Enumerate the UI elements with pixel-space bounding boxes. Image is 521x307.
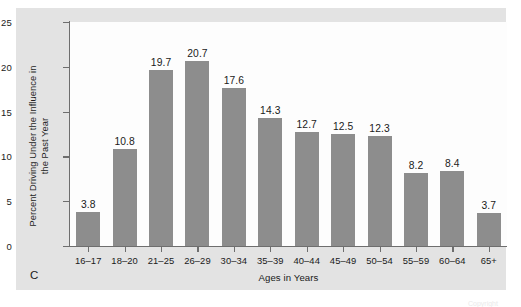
bar-value-label: 20.7 <box>187 48 207 59</box>
bar-value-label: 17.6 <box>224 75 244 86</box>
bar-group: 3.7 <box>471 22 507 246</box>
bar <box>149 70 173 247</box>
x-tick-mark <box>270 247 271 252</box>
y-axis-title-line-1: Percent Driving Under the Influence in <box>28 36 40 256</box>
x-tick-label: 50–54 <box>366 255 393 266</box>
y-tick-mark <box>63 246 69 247</box>
bar-value-label: 3.7 <box>481 200 496 211</box>
bar <box>113 149 137 246</box>
bar-value-label: 3.8 <box>81 199 96 210</box>
bar-value-label: 12.7 <box>296 119 316 130</box>
bar-group: 10.8 <box>106 22 142 246</box>
bar <box>222 88 246 246</box>
bar-group: 12.5 <box>325 22 361 246</box>
x-axis-title: Ages in Years <box>70 272 507 283</box>
bar-group: 8.2 <box>398 22 434 246</box>
y-tick-label: 25 <box>1 17 12 28</box>
bar-group: 12.7 <box>289 22 325 246</box>
bar-group: 20.7 <box>179 22 215 246</box>
x-tick-label: 16–17 <box>75 255 102 266</box>
y-tick-mark <box>63 22 69 23</box>
bar-series: 3.810.819.720.717.614.312.712.512.38.28.… <box>70 22 507 246</box>
bar-value-label: 12.5 <box>333 121 353 132</box>
bar <box>477 213 501 246</box>
bar-value-label: 10.8 <box>114 136 134 147</box>
bar-value-label: 14.3 <box>260 105 280 116</box>
y-tick-label: 20 <box>1 61 12 72</box>
bar <box>185 61 209 246</box>
bar <box>404 173 428 246</box>
panel-letter: C <box>30 269 38 281</box>
bar-group: 17.6 <box>216 22 252 246</box>
figure-panel: 0510152025 Percent Driving Under the Inf… <box>16 8 506 290</box>
x-tick-label: 30–34 <box>221 255 248 266</box>
x-tick-label: 55–59 <box>403 255 430 266</box>
y-axis-title: Percent Driving Under the Influence in t… <box>28 36 54 256</box>
x-tick-label: 45–49 <box>330 255 357 266</box>
y-axis-title-line-2: the Past Year <box>40 36 52 256</box>
y-tick-label: 5 <box>7 196 12 207</box>
x-tick-label: 60–64 <box>439 255 466 266</box>
x-tick-mark <box>88 247 89 252</box>
y-tick-mark <box>63 201 69 202</box>
bar-value-label: 8.4 <box>445 158 460 169</box>
y-tick-mark <box>63 67 69 68</box>
y-tick-label: 15 <box>1 106 12 117</box>
x-tick-label: 18–20 <box>111 255 138 266</box>
bar <box>368 136 392 246</box>
bar <box>440 171 464 246</box>
bar-group: 8.4 <box>434 22 470 246</box>
x-tick-mark <box>343 247 344 252</box>
y-tick-mark <box>63 156 69 157</box>
y-tick-mark <box>63 112 69 113</box>
y-tick-label: 0 <box>7 241 12 252</box>
x-tick-mark <box>489 247 490 252</box>
bar <box>331 134 355 246</box>
x-tick-mark <box>307 247 308 252</box>
x-tick-label: 26–29 <box>184 255 211 266</box>
bar-group: 3.8 <box>70 22 106 246</box>
bar-value-label: 12.3 <box>369 123 389 134</box>
x-tick-mark <box>125 247 126 252</box>
x-tick-mark <box>161 247 162 252</box>
x-tick-mark <box>452 247 453 252</box>
x-tick-label: 35–39 <box>257 255 284 266</box>
bar <box>295 132 319 246</box>
bar-value-label: 8.2 <box>409 160 424 171</box>
bar <box>258 118 282 246</box>
bar <box>76 212 100 246</box>
bar-value-label: 19.7 <box>151 57 171 68</box>
x-tick-label: 40–44 <box>293 255 320 266</box>
x-tick-mark <box>234 247 235 252</box>
x-tick-mark <box>197 247 198 252</box>
x-tick-mark <box>416 247 417 252</box>
x-tick-label: 21–25 <box>148 255 175 266</box>
y-tick-label: 10 <box>1 151 12 162</box>
bar-group: 19.7 <box>143 22 179 246</box>
bar-group: 14.3 <box>252 22 288 246</box>
bar-group: 12.3 <box>361 22 397 246</box>
x-tick-mark <box>380 247 381 252</box>
scan-artifact: Copyright <box>468 300 498 307</box>
x-tick-label: 65+ <box>481 255 497 266</box>
